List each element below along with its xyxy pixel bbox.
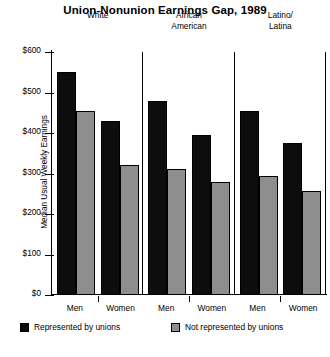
bar-union <box>283 143 302 295</box>
bar-nonunion <box>76 111 95 295</box>
bar-union <box>240 111 259 295</box>
bar-union <box>101 121 120 295</box>
x-tick <box>98 296 99 302</box>
x-tick <box>189 296 190 302</box>
y-tick-label: $200 <box>23 207 41 217</box>
group-separator <box>142 52 143 295</box>
bar-nonunion <box>259 176 278 295</box>
plot-area: $600$500$400$300$200$100$0 Median Usual … <box>52 52 326 295</box>
x-axis-label: Men <box>143 303 189 313</box>
chart-legend: Represented by unions Not represented by… <box>20 322 320 338</box>
group-separator <box>325 52 326 295</box>
bar-union <box>57 72 76 295</box>
legend-swatch-union-icon <box>20 323 29 332</box>
bar-union <box>148 101 167 295</box>
x-axis-label: Men <box>235 303 281 313</box>
legend-item-nonunion: Not represented by unions <box>171 322 283 332</box>
legend-swatch-nonunion-icon <box>171 323 180 332</box>
bar-nonunion <box>167 169 186 295</box>
y-tick: $100 <box>45 255 54 256</box>
bar-nonunion <box>302 191 321 295</box>
y-axis-title: Median Usual Weekly Earnings <box>40 92 49 252</box>
x-axis-label: Women <box>280 303 326 313</box>
bar-union <box>192 135 211 295</box>
legend-label-union: Represented by unions <box>34 322 120 332</box>
chart-container: Union-Nonunion Earnings Gap, 1989 $600$5… <box>0 0 330 357</box>
bar-nonunion <box>120 165 139 295</box>
y-tick-label: $300 <box>23 167 41 177</box>
legend-item-union: Represented by unions <box>20 322 120 332</box>
y-tick: $0 <box>45 295 54 296</box>
y-tick-label: $0 <box>32 288 41 298</box>
x-axis-label: Men <box>52 303 98 313</box>
x-axis-label: Women <box>98 303 144 313</box>
x-tick <box>280 296 281 302</box>
y-tick-label: $500 <box>23 86 41 96</box>
legend-label-nonunion: Not represented by unions <box>185 322 283 332</box>
group-label: Latino/ Latina <box>235 10 326 31</box>
group-label: White <box>52 10 143 21</box>
bar-nonunion <box>211 182 230 295</box>
y-tick-label: $400 <box>23 126 41 136</box>
y-tick: $600 <box>45 52 54 53</box>
group-label: African American <box>143 10 234 31</box>
group-separator <box>234 52 235 295</box>
x-axis-label: Women <box>189 303 235 313</box>
y-tick-label: $600 <box>23 45 41 55</box>
y-tick-label: $100 <box>23 248 41 258</box>
